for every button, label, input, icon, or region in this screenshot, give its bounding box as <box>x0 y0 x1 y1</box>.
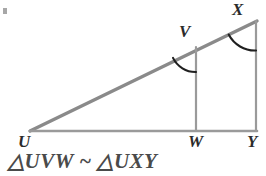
angle-arc-X <box>229 35 256 51</box>
vertex-label-W: W <box>188 133 203 150</box>
vertex-label-Y: Y <box>247 133 257 150</box>
vertex-label-V: V <box>179 23 190 40</box>
similarity-statement-caption: △UVW ~ △UXY <box>8 148 157 174</box>
vertex-label-X: X <box>232 1 243 18</box>
segment-UX <box>30 21 257 131</box>
figure-page: X V U W Y △UVW ~ △UXY <box>0 0 266 176</box>
